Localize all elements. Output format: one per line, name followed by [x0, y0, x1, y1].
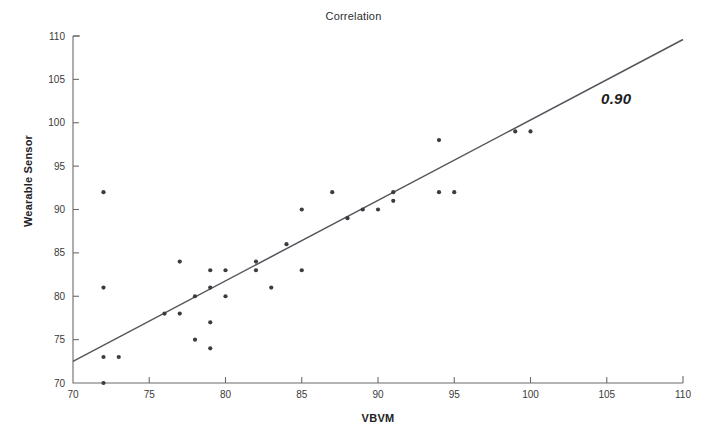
data-point — [208, 346, 212, 350]
x-tick-label: 100 — [522, 389, 539, 400]
x-tick-label: 110 — [675, 389, 691, 400]
data-point — [208, 320, 212, 324]
y-tick-label: 75 — [54, 334, 66, 345]
y-tick-label: 90 — [54, 204, 66, 215]
x-tick-label: 95 — [449, 389, 461, 400]
x-tick-label: 70 — [67, 389, 79, 400]
data-point — [300, 207, 304, 211]
data-point — [452, 190, 456, 194]
data-point — [269, 285, 273, 289]
data-point — [254, 259, 258, 263]
data-point — [330, 190, 334, 194]
y-tick-label: 110 — [49, 31, 65, 42]
data-point — [101, 381, 105, 385]
data-point — [437, 138, 441, 142]
y-tick-label: 85 — [54, 247, 66, 258]
y-tick-label: 80 — [54, 291, 66, 302]
y-tick-label: 105 — [48, 74, 65, 85]
data-points — [101, 129, 532, 385]
data-point — [300, 268, 304, 272]
x-axis-ticks: 707580859095100105110 — [67, 377, 691, 400]
x-tick-label: 105 — [598, 389, 615, 400]
data-point — [178, 312, 182, 316]
data-point — [513, 129, 517, 133]
data-point — [162, 312, 166, 316]
y-tick-label: 70 — [54, 378, 66, 389]
y-tick-label: 95 — [54, 161, 66, 172]
data-point — [391, 199, 395, 203]
data-point — [254, 268, 258, 272]
x-tick-label: 75 — [144, 389, 156, 400]
data-point — [117, 355, 121, 359]
data-point — [361, 207, 365, 211]
data-point — [208, 285, 212, 289]
x-tick-label: 80 — [220, 389, 232, 400]
data-point — [101, 355, 105, 359]
y-tick-label: 100 — [48, 117, 65, 128]
data-point — [193, 294, 197, 298]
scatter-chart: Correlation Wearable Sensor VBVM 0.90 70… — [0, 0, 707, 443]
data-point — [391, 190, 395, 194]
data-point — [193, 338, 197, 342]
data-point — [437, 190, 441, 194]
data-point — [528, 129, 532, 133]
data-point — [101, 285, 105, 289]
x-tick-label: 85 — [296, 389, 308, 400]
data-point — [223, 268, 227, 272]
data-point — [223, 294, 227, 298]
data-point — [101, 190, 105, 194]
data-point — [376, 207, 380, 211]
data-point — [208, 268, 212, 272]
y-axis-ticks: 707580859095100105110 — [48, 31, 79, 389]
plot-area: 707580859095100105110 707580859095100105… — [0, 0, 707, 443]
data-point — [345, 216, 349, 220]
data-point — [284, 242, 288, 246]
data-point — [178, 259, 182, 263]
x-tick-label: 90 — [372, 389, 384, 400]
